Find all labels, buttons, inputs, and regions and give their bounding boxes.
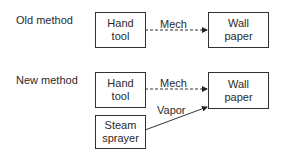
new-hand-tool-text: Hand tool: [107, 77, 133, 103]
new-wall-paper-text: Wall paper: [224, 78, 252, 104]
new-method-label: New method: [16, 74, 78, 87]
old-wall-paper-box: Wall paper: [208, 12, 269, 48]
new-hand-tool-box: Hand tool: [95, 72, 146, 108]
steam-sprayer-box: Steam sprayer: [95, 115, 146, 149]
steam-sprayer-text: Steam sprayer: [102, 119, 139, 145]
new-mech-label: Mech: [160, 77, 187, 90]
new-vapor-label: Vapor: [157, 104, 186, 117]
old-mech-label: Mech: [160, 18, 187, 31]
old-method-label: Old method: [16, 14, 73, 27]
old-hand-tool-text: Hand tool: [107, 17, 133, 43]
old-hand-tool-box: Hand tool: [95, 12, 146, 48]
old-wall-paper-text: Wall paper: [224, 17, 252, 43]
new-wall-paper-box: Wall paper: [208, 72, 269, 109]
